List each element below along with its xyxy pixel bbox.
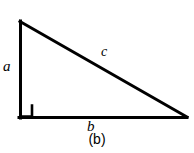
- triangle-side-c-line: [20, 22, 187, 118]
- right-angle-marker-icon: [21, 106, 32, 117]
- side-label-a: a: [3, 59, 11, 74]
- figure-caption: (b): [0, 132, 194, 146]
- figure-container: a c b (b): [0, 0, 194, 153]
- side-label-c: c: [101, 45, 107, 59]
